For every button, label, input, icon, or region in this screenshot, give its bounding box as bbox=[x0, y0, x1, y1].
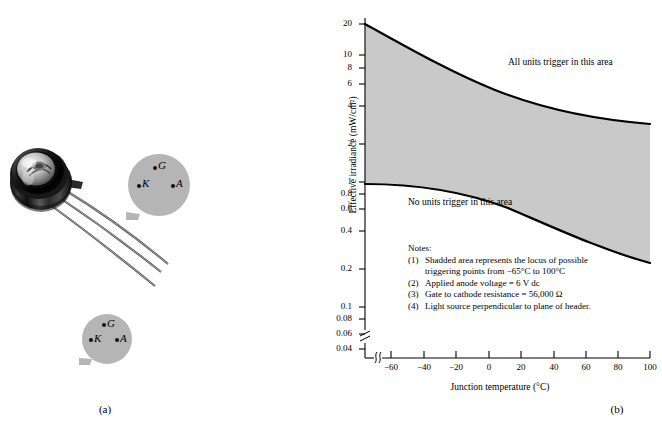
pin-dot-cathode bbox=[89, 338, 93, 342]
xtick-0: 0 bbox=[474, 362, 504, 372]
pin-dot-gate bbox=[153, 166, 157, 170]
notes-heading: Notes: bbox=[408, 243, 591, 255]
annotation-no-units-trigger: No units trigger in this area bbox=[408, 197, 512, 207]
y-axis-title: Effective irradiance (mW/cm²) bbox=[348, 70, 358, 240]
ytick-1: 1 bbox=[318, 176, 352, 186]
note-text-3: Gate to cathode resistance = 56,000 Ω bbox=[425, 289, 591, 301]
xtick-40: 40 bbox=[539, 362, 569, 372]
ytick-4: 4 bbox=[318, 100, 352, 110]
note-number-2: (2) bbox=[408, 278, 425, 290]
ytick-0.06: 0.06 bbox=[318, 328, 352, 338]
xtick--20: −20 bbox=[441, 362, 471, 372]
ytick-10: 10 bbox=[318, 49, 352, 59]
notes-heading-row: Notes: bbox=[408, 243, 591, 255]
note-text-4: Light source perpendicular to plane of h… bbox=[425, 301, 591, 313]
ytick-0.8: 0.8 bbox=[318, 188, 352, 198]
caption-a: (a) bbox=[85, 403, 125, 415]
note-item-1-continuation: triggering points from −65°C to 100°C bbox=[408, 266, 591, 278]
caption-b: (b) bbox=[597, 403, 637, 415]
xtick-60: 60 bbox=[571, 362, 601, 372]
note-item-2: (2) Applied anode voltage = 6 V dc bbox=[408, 278, 591, 290]
xtick-100: 100 bbox=[635, 362, 662, 372]
x-axis-title: Junction temperature (°C) bbox=[370, 382, 630, 392]
note-number-3: (3) bbox=[408, 289, 425, 301]
upper-pinout-diagram: G K A bbox=[118, 146, 208, 236]
xtick--60: −60 bbox=[376, 362, 406, 372]
ytick-2: 2 bbox=[318, 138, 352, 148]
note-item-3: (3) Gate to cathode resistance = 56,000 … bbox=[408, 289, 591, 301]
note-item-4: (4) Light source perpendicular to plane … bbox=[408, 301, 591, 313]
x-tick-marks bbox=[391, 351, 650, 358]
xtick-80: 80 bbox=[603, 362, 633, 372]
pin-label-anode: A bbox=[176, 177, 183, 189]
panel-a-device-photo: G K A G K A (a) bbox=[0, 0, 330, 427]
pin-dot-gate bbox=[102, 323, 106, 327]
lower-pinout-diagram: G K A bbox=[74, 308, 148, 382]
y-tick-marks bbox=[359, 24, 365, 349]
ytick-0.1: 0.1 bbox=[318, 301, 352, 311]
pin-label-gate: G bbox=[158, 159, 166, 171]
note-number-4: (4) bbox=[408, 301, 425, 313]
ytick-6: 6 bbox=[318, 78, 352, 88]
ytick-0.4: 0.4 bbox=[318, 225, 352, 235]
note-item-1: (1) Shadded area represents the locus of… bbox=[408, 255, 591, 267]
chart-notes: Notes: (1) Shadded area represents the l… bbox=[408, 243, 591, 313]
pin-dot-cathode bbox=[137, 184, 141, 188]
note-text-2: Applied anode voltage = 6 V dc bbox=[425, 278, 591, 290]
xtick-20: 20 bbox=[506, 362, 536, 372]
panel-b-chart: 20 10 8 6 4 2 1 0.8 0.6 0.4 0.2 0.1 0.08… bbox=[330, 0, 662, 427]
ytick-20: 20 bbox=[318, 18, 352, 28]
pin-label-cathode: K bbox=[94, 332, 101, 344]
ytick-0.2: 0.2 bbox=[318, 263, 352, 273]
pin-label-gate: G bbox=[107, 317, 115, 329]
ytick-0.6: 0.6 bbox=[318, 203, 352, 213]
xtick--40: −40 bbox=[409, 362, 439, 372]
pin-dot-anode bbox=[115, 338, 119, 342]
pin-dot-anode bbox=[171, 184, 175, 188]
pin-label-cathode: K bbox=[142, 177, 149, 189]
ytick-0.04: 0.04 bbox=[318, 343, 352, 353]
annotation-all-units-trigger: All units trigger in this area bbox=[508, 57, 613, 67]
ytick-0.08: 0.08 bbox=[318, 313, 352, 323]
pin-label-anode: A bbox=[120, 332, 127, 344]
ytick-8: 8 bbox=[318, 62, 352, 72]
note-number-1: (1) bbox=[408, 255, 425, 267]
note-text-1: Shadded area represents the locus of pos… bbox=[425, 255, 591, 267]
